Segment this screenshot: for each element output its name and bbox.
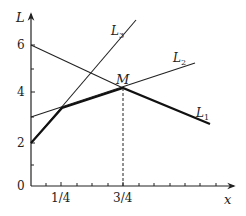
- chart: L x 0 2 4 6 1/4 3/4: [0, 0, 246, 216]
- svg-text:4: 4: [17, 85, 25, 99]
- y-tick-labels: 0 2 4 6: [17, 38, 25, 193]
- svg-text:0: 0: [17, 179, 25, 193]
- min-envelope: [31, 88, 210, 143]
- label-L2: L 2: [172, 51, 186, 67]
- x-axis-label: x: [224, 192, 232, 207]
- svg-text:L: L: [195, 106, 204, 120]
- x-tick-labels: 1/4 3/4: [51, 191, 133, 205]
- label-L1: L 1: [195, 106, 209, 122]
- point-M-label: M: [115, 72, 130, 87]
- svg-text:L: L: [110, 24, 119, 38]
- y-axis-label: L: [15, 10, 25, 25]
- svg-text:1: 1: [204, 113, 209, 122]
- svg-text:3: 3: [119, 31, 124, 40]
- svg-text:3/4: 3/4: [113, 191, 133, 205]
- svg-text:2: 2: [17, 136, 25, 150]
- svg-text:6: 6: [17, 38, 25, 52]
- svg-text:2: 2: [181, 58, 186, 67]
- svg-text:L: L: [172, 51, 181, 65]
- line-L2: [31, 63, 195, 117]
- svg-text:1/4: 1/4: [51, 191, 71, 205]
- label-L3: L 3: [110, 24, 124, 40]
